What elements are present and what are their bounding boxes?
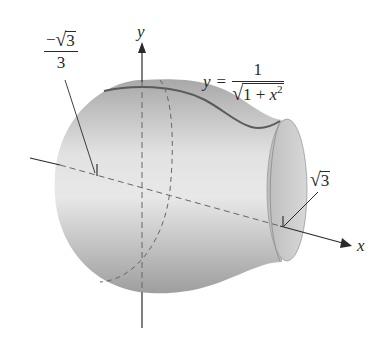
function-numerator: 1	[252, 60, 265, 80]
sqrt-radicand: 1 + x2	[242, 83, 284, 104]
right-radicand: 3	[320, 171, 331, 190]
radicand-text: 1 +	[243, 85, 270, 104]
y-axis-arrowhead	[138, 42, 146, 53]
minus-sign: −	[46, 30, 56, 50]
function-lhs: y	[203, 72, 211, 92]
surface-end-cap	[267, 119, 307, 261]
left-bound-fraction: − √ 3 3	[44, 30, 78, 73]
fraction-bar	[232, 81, 283, 82]
right-bound-sqrt: √ 3	[310, 170, 330, 190]
fraction-bar	[44, 51, 78, 52]
left-radicand: 3	[65, 31, 76, 50]
surface-of-revolution-figure: y x y = 1 √ 1 + x2 − √ 3 3 √	[0, 0, 390, 347]
left-denominator: 3	[57, 53, 66, 73]
radicand-var: x	[269, 85, 277, 104]
left-bound-numerator: − √ 3	[44, 30, 78, 50]
right-bound-label: √ 3	[310, 170, 330, 191]
function-fraction: 1 √ 1 + x2	[232, 60, 283, 104]
function-denominator: √ 1 + x2	[232, 83, 283, 104]
function-label: y = 1 √ 1 + x2	[203, 60, 284, 104]
surface-body	[55, 79, 283, 293]
left-bound-label: − √ 3 3	[44, 30, 78, 73]
radicand-exp: 2	[277, 83, 283, 95]
function-equals: =	[217, 72, 227, 92]
x-axis-arrowhead	[340, 238, 352, 248]
x-axis-left-solid	[30, 158, 60, 165]
y-axis-label: y	[137, 22, 145, 42]
x-axis-label: x	[357, 236, 365, 256]
